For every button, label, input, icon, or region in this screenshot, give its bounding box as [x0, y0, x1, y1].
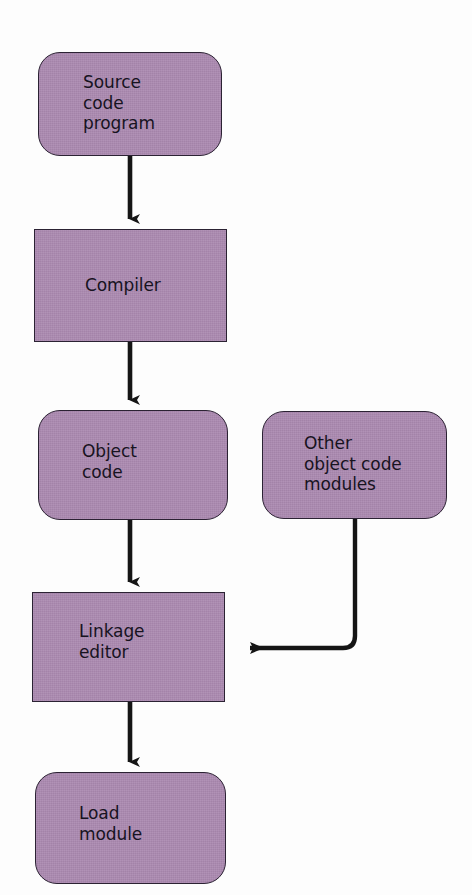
node-object-code[interactable]	[38, 410, 228, 520]
node-other-object-code-modules[interactable]	[262, 411, 447, 519]
connector-line	[250, 519, 355, 648]
fill-texture	[263, 412, 446, 518]
fill-texture	[35, 230, 226, 341]
node-source-code-program[interactable]	[38, 52, 222, 156]
node-compiler[interactable]	[34, 229, 227, 342]
fill-texture	[39, 411, 227, 519]
node-load-module[interactable]	[35, 772, 226, 884]
connector-other-modules-to-linkage-editor	[250, 519, 355, 648]
fill-texture	[36, 773, 225, 883]
fill-texture	[33, 593, 224, 701]
fill-texture	[39, 53, 221, 155]
flowchart-diagram: Source code program Compiler Object code…	[0, 0, 472, 895]
node-linkage-editor[interactable]	[32, 592, 225, 702]
